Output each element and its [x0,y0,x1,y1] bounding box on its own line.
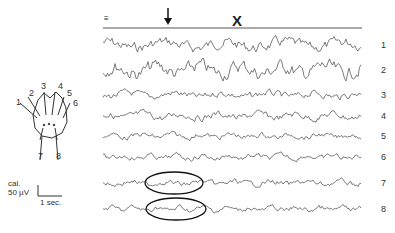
channel-label-1: 1 [381,40,386,50]
eeg-trace-4 [103,109,361,122]
cal-time: 1 sec. [40,198,61,207]
cal-label: cal. [8,179,20,188]
head-montage-diagram [20,92,70,160]
channel-label-3: 3 [381,90,386,100]
eeg-traces [103,35,361,213]
cal-amplitude: 50 µV [8,188,29,197]
eeg-trace-1 [103,35,361,52]
channel-label-6: 6 [381,152,386,162]
electrode-label-6: 6 [73,98,78,108]
top-left-marker: ≡ [104,14,109,23]
electrode-label-7: 7 [38,151,43,161]
electrode-label-4: 4 [58,81,63,91]
highlight-ellipses [145,172,206,220]
eeg-trace-7 [103,178,361,188]
calibration-bar [38,185,62,196]
electrode-label-8: 8 [56,151,61,161]
electrode-label-2: 2 [29,88,34,98]
arrow-marker-icon [164,8,172,25]
electrode-label-3: 3 [41,81,46,91]
channel-label-4: 4 [381,111,386,121]
eeg-trace-3 [103,89,361,100]
x-marker: X [232,12,242,29]
channel-label-8: 8 [381,204,386,214]
channel-label-2: 2 [381,65,386,75]
eeg-trace-2 [103,58,361,81]
eeg-trace-8 [103,204,361,213]
eeg-trace-5 [103,131,361,140]
electrode-label-1: 1 [16,97,21,107]
electrode-label-5: 5 [67,88,72,98]
channel-label-7: 7 [381,178,386,188]
channel-label-5: 5 [381,131,386,141]
eeg-trace-6 [103,152,361,162]
